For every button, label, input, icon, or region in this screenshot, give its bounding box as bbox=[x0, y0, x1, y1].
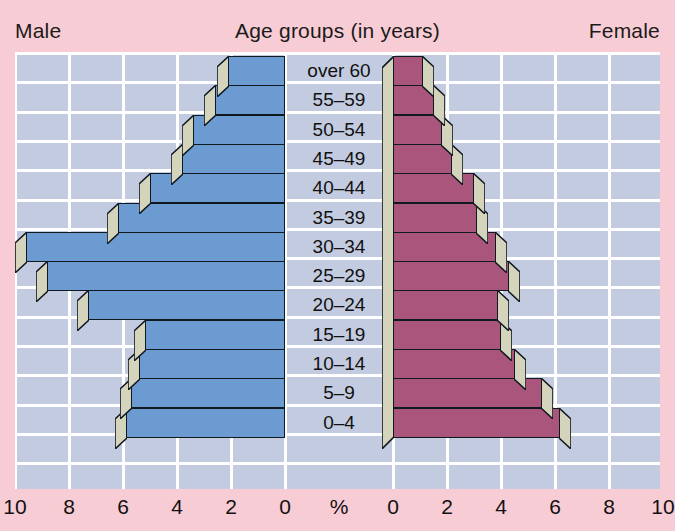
male-bar bbox=[145, 320, 285, 350]
x-axis-tick-male: 6 bbox=[117, 495, 129, 519]
male-bar-row bbox=[88, 290, 285, 320]
age-group-label: 35–39 bbox=[285, 207, 393, 229]
female-bar-side-face bbox=[508, 261, 520, 303]
x-axis-tick-female: 2 bbox=[441, 495, 453, 519]
male-bar bbox=[131, 378, 285, 408]
age-group-label: 15–19 bbox=[285, 324, 393, 346]
female-bar bbox=[393, 408, 560, 438]
male-bar bbox=[88, 290, 285, 320]
x-axis-tick-male: 0 bbox=[279, 495, 291, 519]
male-bar-row bbox=[150, 173, 285, 203]
male-bar bbox=[126, 408, 285, 438]
female-bar-row bbox=[393, 203, 477, 233]
female-bar-side-face bbox=[514, 349, 526, 391]
male-bar-row bbox=[145, 320, 285, 350]
female-bar-row bbox=[393, 349, 515, 379]
female-bar-row bbox=[393, 320, 501, 350]
male-bar-row bbox=[131, 378, 285, 408]
male-bar bbox=[47, 261, 285, 291]
female-bar-side-face bbox=[559, 408, 571, 450]
grid-line-vertical bbox=[608, 52, 611, 489]
x-axis-tick-female: 6 bbox=[549, 495, 561, 519]
female-bar-row bbox=[393, 56, 423, 86]
female-side-label: Female bbox=[589, 19, 660, 43]
chart-header: Male Age groups (in years) Female bbox=[0, 0, 675, 52]
age-group-label: over 60 bbox=[285, 60, 393, 82]
male-bar bbox=[26, 232, 285, 262]
male-bar-row bbox=[139, 349, 285, 379]
x-axis-tick-female: 10 bbox=[651, 495, 674, 519]
female-bar bbox=[393, 349, 515, 379]
male-bar-row bbox=[47, 261, 285, 291]
x-axis-unit-label: % bbox=[330, 495, 349, 519]
x-axis-tick-labels: 1086420%0246810 bbox=[0, 489, 675, 531]
female-bar-row bbox=[393, 408, 560, 438]
female-bar-side-face bbox=[541, 378, 553, 420]
female-bar bbox=[393, 261, 509, 291]
age-group-label: 5–9 bbox=[285, 382, 393, 404]
male-bar bbox=[150, 173, 285, 203]
male-bar-row bbox=[228, 56, 285, 86]
female-bar bbox=[393, 203, 477, 233]
x-axis-tick-female: 8 bbox=[603, 495, 615, 519]
x-axis-tick-male: 2 bbox=[225, 495, 237, 519]
female-bar bbox=[393, 320, 501, 350]
female-bar-side-face bbox=[473, 173, 485, 215]
age-group-label: 20–24 bbox=[285, 294, 393, 316]
x-axis-tick-male: 8 bbox=[63, 495, 75, 519]
male-bar bbox=[182, 144, 285, 174]
x-axis-tick-male: 10 bbox=[3, 495, 26, 519]
female-bar-row bbox=[393, 261, 509, 291]
age-group-label-column: over 6055–5950–5445–4940–4435–3930–3425–… bbox=[285, 52, 393, 489]
female-bar-row bbox=[393, 290, 498, 320]
male-bar-row bbox=[126, 408, 285, 438]
age-group-label: 50–54 bbox=[285, 119, 393, 141]
x-axis-tick-male: 4 bbox=[171, 495, 183, 519]
female-bar bbox=[393, 56, 423, 86]
female-bar-side-face bbox=[433, 85, 445, 127]
age-group-label: 55–59 bbox=[285, 89, 393, 111]
female-bar-side-face bbox=[495, 232, 507, 274]
age-group-label: 10–14 bbox=[285, 353, 393, 375]
x-axis-tick-female: 0 bbox=[387, 495, 399, 519]
age-group-label: 40–44 bbox=[285, 177, 393, 199]
age-group-label: 30–34 bbox=[285, 236, 393, 258]
male-bar bbox=[228, 56, 285, 86]
male-bar-row bbox=[26, 232, 285, 262]
age-group-label: 45–49 bbox=[285, 148, 393, 170]
female-bar-side-face bbox=[451, 144, 463, 186]
male-bar bbox=[139, 349, 285, 379]
male-bar-row bbox=[182, 144, 285, 174]
female-bar bbox=[393, 290, 498, 320]
age-group-label: 25–29 bbox=[285, 265, 393, 287]
female-bar-side-face bbox=[422, 56, 434, 98]
chart-title: Age groups (in years) bbox=[0, 19, 675, 43]
age-group-label: 0–4 bbox=[285, 412, 393, 434]
x-axis-tick-female: 4 bbox=[495, 495, 507, 519]
